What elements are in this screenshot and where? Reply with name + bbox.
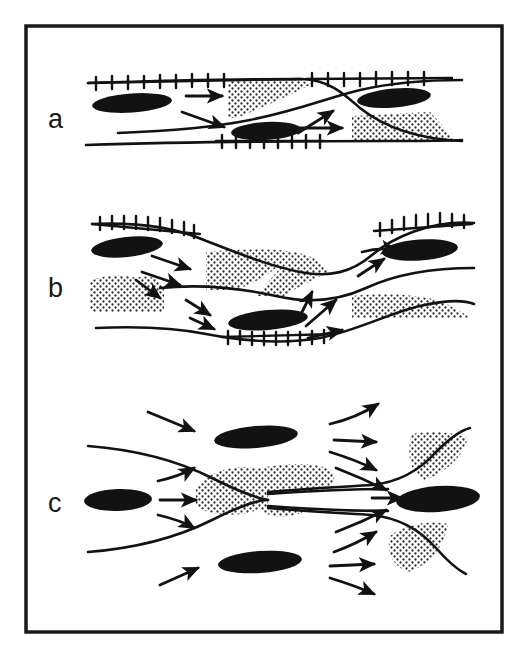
black-lens xyxy=(213,422,299,451)
stipple-patch xyxy=(228,80,312,118)
panel-c-label: c xyxy=(48,488,62,518)
panel-a-label: a xyxy=(48,104,64,134)
panel-c: c xyxy=(48,404,481,594)
black-lens xyxy=(91,91,172,116)
ticked-line xyxy=(374,213,472,236)
ticked-line xyxy=(92,216,200,238)
flow-arrow xyxy=(158,468,194,481)
flow-arrow xyxy=(148,412,194,431)
panel-b-label: b xyxy=(48,273,63,303)
flow-arrow xyxy=(334,440,376,442)
stipple-patch xyxy=(352,112,455,141)
flow-arrow xyxy=(182,112,224,127)
flow-arrow xyxy=(186,300,210,315)
black-lens xyxy=(84,488,153,512)
black-lens xyxy=(395,483,481,515)
black-lens xyxy=(217,548,302,576)
black-lens xyxy=(227,307,308,334)
black-lens xyxy=(231,120,302,142)
flow-arrow xyxy=(330,404,378,424)
figure-canvas: a xyxy=(0,0,528,645)
flow-arrow xyxy=(190,318,214,329)
flow-arrow xyxy=(330,578,374,594)
stipple-patch xyxy=(352,294,470,318)
stipple-patch xyxy=(409,432,468,480)
flow-arrow xyxy=(306,300,336,326)
stipple-patch xyxy=(389,523,448,573)
flow-arrow xyxy=(152,256,190,269)
ticked-line xyxy=(306,72,452,86)
flow-arrow xyxy=(298,111,333,133)
panel-b: b xyxy=(48,213,474,345)
flow-arrow xyxy=(158,515,194,528)
figure-root: a xyxy=(0,0,528,645)
flow-arrow xyxy=(160,568,198,585)
flow-arrow xyxy=(330,564,374,566)
flow-arrow xyxy=(334,532,376,552)
panel-a: a xyxy=(48,72,462,148)
